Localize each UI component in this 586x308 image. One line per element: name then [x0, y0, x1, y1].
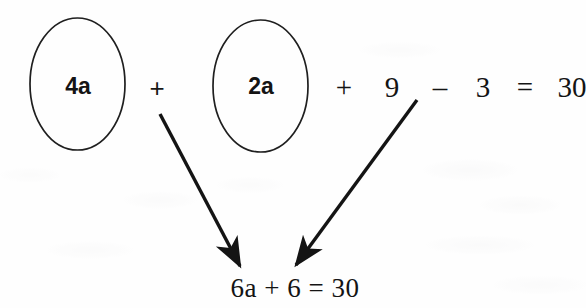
operator-minus: – — [433, 73, 448, 102]
operator-plus-2: + — [336, 73, 352, 102]
operator-plus-1: + — [149, 75, 164, 101]
term-4a: 4a — [65, 75, 91, 98]
number-3: 3 — [476, 73, 491, 102]
number-9: 9 — [385, 73, 400, 102]
figure-vector-overlay — [0, 0, 586, 308]
number-30: 30 — [558, 73, 586, 102]
result-equation: 6a + 6 = 30 — [231, 273, 360, 304]
operator-equals: = — [517, 73, 533, 102]
arrow-left — [160, 114, 240, 266]
arrow-right — [296, 100, 417, 265]
figure-canvas: 4a + 2a + 9 – 3 = 30 6a + 6 = 30 — [0, 0, 586, 308]
term-2a: 2a — [248, 75, 274, 98]
